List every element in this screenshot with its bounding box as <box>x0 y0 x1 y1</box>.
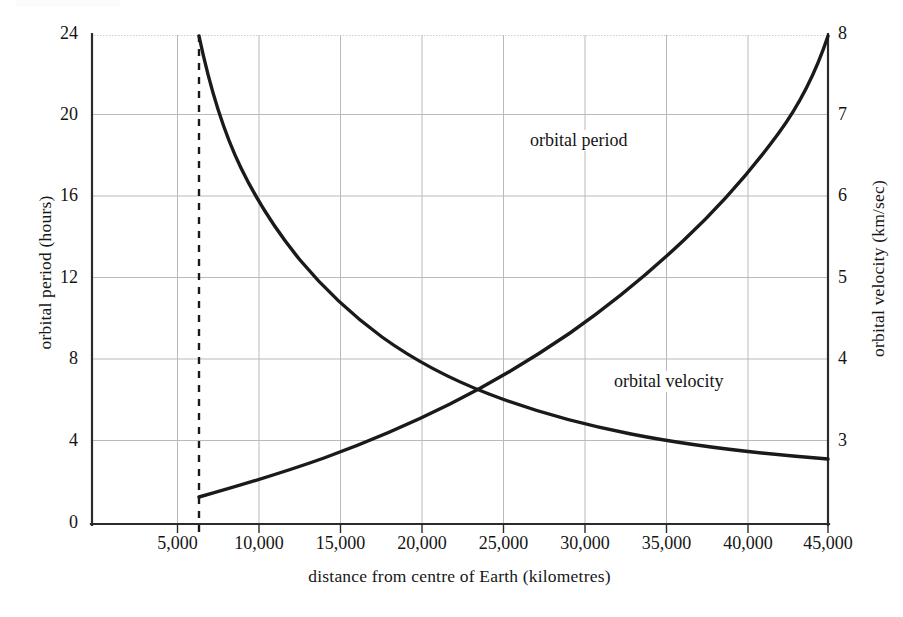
scan-artifact <box>16 0 120 7</box>
y-axis-title: orbital period (hours) <box>35 123 56 423</box>
x-axis-ticks <box>178 524 829 533</box>
chart-figure: 24 20 16 12 8 4 0 8 7 6 5 4 3 5,000 10,0… <box>0 0 903 617</box>
series-label-orbital-period: orbital period <box>528 130 629 151</box>
plot-canvas <box>0 0 903 617</box>
xtick-label-45000: 45,000 <box>768 533 888 554</box>
ytick-label-24: 24 <box>18 23 78 44</box>
series-label-orbital-velocity: orbital velocity <box>612 371 725 392</box>
x-gridlines <box>178 35 749 524</box>
plot-frame <box>91 34 829 525</box>
ytick-label-0: 0 <box>18 512 78 533</box>
y2tick-label-8: 8 <box>838 23 898 44</box>
series-orbital-period-curve <box>199 36 828 459</box>
y2-axis-title: orbital velocity (km/sec) <box>868 119 889 419</box>
y2tick-label-3: 3 <box>838 430 898 451</box>
ytick-label-4: 4 <box>18 430 78 451</box>
series-orbital-velocity-curve <box>199 36 828 497</box>
x-axis-title: distance from centre of Earth (kilometre… <box>91 566 828 587</box>
